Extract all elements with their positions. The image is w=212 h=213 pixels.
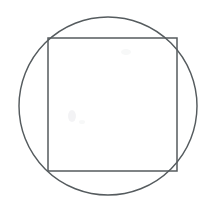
square-shape xyxy=(48,38,177,171)
geometry-figure-svg: Square inscribed in a circle xyxy=(0,0,212,213)
geometry-figure-canvas: Square inscribed in a circle xyxy=(0,0,212,213)
scan-artifacts xyxy=(68,49,131,124)
scan-speck-left-icon xyxy=(68,110,76,122)
scan-speck-mid-icon xyxy=(79,120,85,124)
scan-speck-upper-icon xyxy=(121,49,131,55)
circle-shape xyxy=(19,17,197,195)
